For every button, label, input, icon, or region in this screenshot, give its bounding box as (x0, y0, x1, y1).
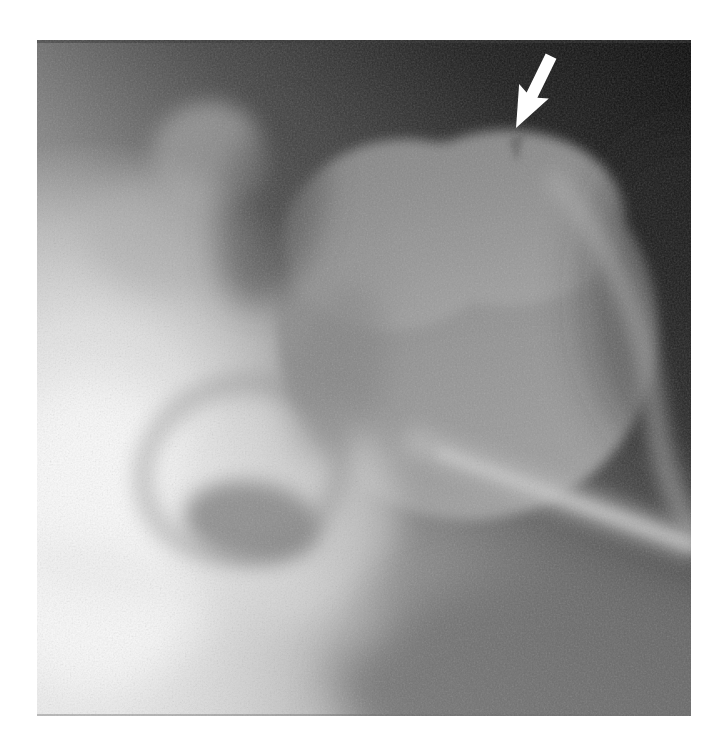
film-grain (37, 40, 691, 716)
xray-figure (37, 40, 691, 716)
page-background (0, 0, 725, 755)
xray-image (37, 40, 691, 716)
